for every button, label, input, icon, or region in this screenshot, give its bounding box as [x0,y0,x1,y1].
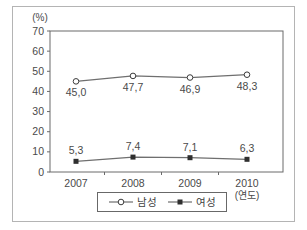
legend-label-female: 여성 [196,197,216,208]
x-axis-unit-label: (연도) [235,190,260,201]
legend-point-female [178,200,183,205]
data-point-male [130,73,136,79]
data-point-male [244,72,250,78]
series-line-male [76,75,247,82]
y-tick-label: 70 [32,25,44,37]
legend-label-male: 남성 [137,197,157,208]
data-label-male: 46,9 [180,83,201,95]
y-tick-label: 40 [32,85,44,97]
data-label-female: 5,3 [69,144,84,156]
data-point-female [245,157,250,162]
series-line-female [76,157,247,161]
female-series-marker-icon [167,197,193,207]
y-axis-unit-label: (%) [32,12,48,23]
data-label-male: 48,3 [237,80,258,92]
data-label-male: 47,7 [123,81,144,93]
legend-point-male [118,199,124,205]
y-tick-label: 0 [38,166,44,178]
y-tick-label: 20 [32,125,44,137]
y-tick-label: 30 [32,105,44,117]
y-tick-label: 50 [32,65,44,77]
data-label-female: 6,3 [240,142,255,154]
legend-marker-female-glyph [167,197,193,207]
legend-item-female: 여성 [167,197,216,208]
statistics-line-chart-figure: 010203040506070(%)2007200820092010(연도)45… [0,0,307,230]
data-point-female [74,159,79,164]
x-tick-label: 2009 [178,177,202,189]
y-tick-label: 10 [32,145,44,157]
male-series-marker-icon [108,197,134,207]
data-label-female: 7,4 [126,140,141,152]
legend-marker-male-glyph [108,197,134,207]
data-point-male [187,75,193,81]
x-tick-label: 2007 [64,177,88,189]
data-label-male: 45,0 [66,86,87,98]
x-tick-label: 2010 [235,177,259,189]
data-point-male [73,79,79,85]
data-point-female [188,155,193,160]
data-point-female [131,155,136,160]
legend-item-male: 남성 [108,197,157,208]
data-label-female: 7,1 [183,141,198,153]
chart-legend: 남성 여성 [97,192,227,212]
y-tick-label: 60 [32,45,44,57]
x-tick-label: 2008 [121,177,145,189]
